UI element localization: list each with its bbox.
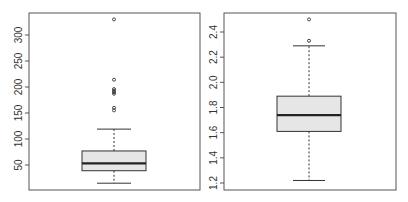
y-tick-label: 150 <box>13 104 24 121</box>
y-tick-label: 50 <box>13 159 24 171</box>
y-tick-label: 100 <box>13 130 24 147</box>
y-tick-label: 1.8 <box>208 100 219 114</box>
outlier-point <box>113 18 116 21</box>
outlier-point <box>308 18 311 21</box>
outlier-point <box>113 106 116 109</box>
y-tick-label: 250 <box>13 52 24 69</box>
y-tick-label: 200 <box>13 78 24 95</box>
y-tick-label: 2.4 <box>208 25 219 39</box>
y-tick-label: 2.2 <box>208 50 219 64</box>
iqr-box <box>82 151 146 171</box>
boxplot-left: 50100150200250300 <box>13 13 200 190</box>
outlier-point <box>113 78 116 81</box>
boxplot-right: 1.21.41.61.82.02.22.4 <box>208 13 396 190</box>
outlier-point <box>308 39 311 42</box>
y-tick-label: 2.0 <box>208 75 219 89</box>
iqr-box <box>277 96 341 131</box>
y-tick-label: 300 <box>13 26 24 43</box>
y-tick-label: 1.4 <box>208 150 219 164</box>
y-tick-label: 1.6 <box>208 125 219 139</box>
y-tick-label: 1.2 <box>208 176 219 190</box>
chart-canvas: 50100150200250300 1.21.41.61.82.02.22.4 <box>0 0 408 202</box>
